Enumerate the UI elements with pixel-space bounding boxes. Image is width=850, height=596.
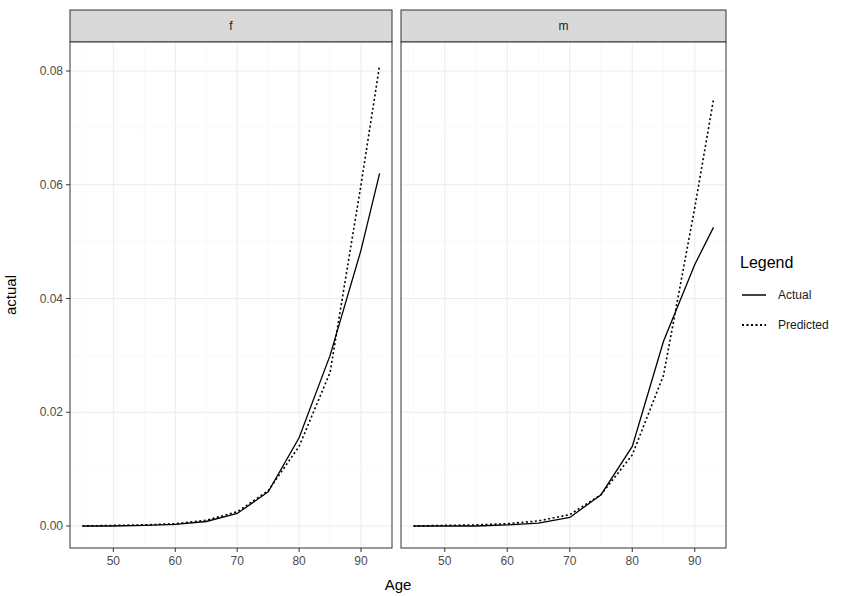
y-tick-label: 0.00 (40, 519, 64, 533)
y-tick-label: 0.02 (40, 405, 64, 419)
x-tick-label: 60 (501, 554, 515, 568)
y-tick-label: 0.08 (40, 64, 64, 78)
y-tick-label: 0.04 (40, 292, 64, 306)
x-tick-label: 50 (438, 554, 452, 568)
x-tick-label: 60 (169, 554, 183, 568)
legend-title: Legend (740, 254, 793, 271)
y-tick-label: 0.06 (40, 178, 64, 192)
x-tick-label: 70 (231, 554, 245, 568)
facet-panel-f: f5060708090 (70, 10, 392, 568)
x-tick-label: 50 (107, 554, 121, 568)
facet-strip-label: m (559, 19, 569, 33)
x-tick-label: 80 (292, 554, 306, 568)
facet-panel-m: m5060708090 (401, 10, 726, 568)
x-axis-title: Age (385, 576, 412, 593)
y-axis-title: actual (2, 275, 19, 315)
plot-area (70, 42, 392, 548)
x-tick-label: 90 (688, 554, 702, 568)
y-axis: 0.000.020.040.060.08 (40, 64, 70, 533)
legend-label-actual: Actual (778, 288, 811, 302)
x-tick-label: 70 (563, 554, 577, 568)
x-tick-label: 80 (626, 554, 640, 568)
faceted-line-chart: f5060708090m50607080900.000.020.040.060.… (0, 0, 850, 596)
x-tick-label: 90 (354, 554, 368, 568)
legend: LegendActualPredicted (740, 254, 829, 332)
legend-label-predicted: Predicted (778, 318, 829, 332)
plot-area (401, 42, 726, 548)
